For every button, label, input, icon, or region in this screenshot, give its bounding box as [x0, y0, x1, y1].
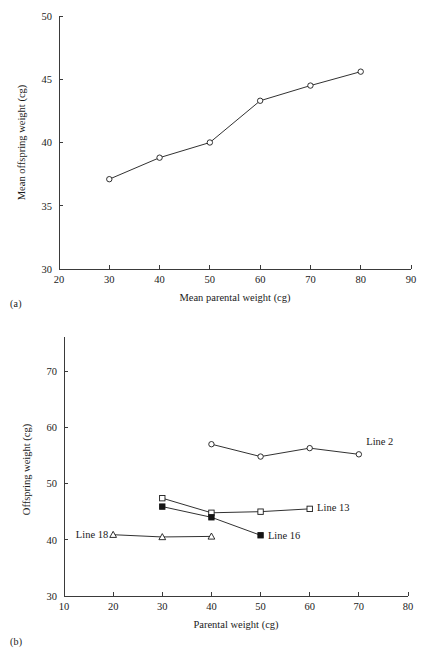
data-point-line-16-1 [209, 515, 214, 520]
x-tick-label-30: 30 [104, 274, 115, 285]
y-axis-title: Offspring weight (cg) [21, 423, 33, 515]
x-tick-label-30: 30 [157, 601, 168, 612]
series-mean-offspring-weight [107, 69, 364, 182]
data-point-line-13-2 [258, 509, 263, 514]
panel-label-b: (b) [10, 636, 22, 647]
data-point-line-16-2 [258, 533, 263, 538]
figure-container: 20304050607080903035404550Mean parental … [0, 0, 427, 661]
data-point-mean-offspring-weight-1 [157, 155, 162, 160]
x-tick-label-60: 60 [255, 274, 266, 285]
series-line-2: Line 2 [209, 436, 394, 460]
y-axis-title: Mean offspring weight (cg) [16, 84, 28, 200]
y-tick-label-60: 60 [47, 422, 58, 433]
series-label-line-2: Line 2 [366, 436, 393, 447]
y-tick-label-45: 45 [42, 74, 53, 85]
data-point-mean-offspring-weight-3 [257, 98, 262, 103]
x-tick-label-20: 20 [108, 601, 119, 612]
y-tick-label-40: 40 [42, 137, 53, 148]
data-point-line-2-2 [307, 445, 312, 450]
data-point-mean-offspring-weight-2 [207, 140, 212, 145]
x-tick-label-80: 80 [403, 601, 414, 612]
data-point-line-2-1 [258, 454, 263, 459]
data-point-line-16-0 [160, 504, 165, 509]
x-tick-label-70: 70 [354, 601, 365, 612]
x-tick-label-50: 50 [205, 274, 216, 285]
chart-panel-b: 10203040506070803040506070Parental weigh… [0, 320, 427, 661]
x-tick-label-20: 20 [54, 274, 65, 285]
data-point-line-13-3 [307, 506, 312, 511]
series-line-mean-offspring-weight [109, 72, 360, 180]
x-tick-label-40: 40 [206, 601, 217, 612]
x-tick-label-80: 80 [355, 274, 366, 285]
data-point-mean-offspring-weight-5 [358, 69, 363, 74]
y-tick-label-50: 50 [47, 478, 58, 489]
series-label-line-18: Line 18 [76, 529, 108, 540]
y-tick-label-30: 30 [42, 264, 53, 275]
y-tick-label-30: 30 [47, 591, 58, 602]
x-tick-label-70: 70 [305, 274, 316, 285]
x-tick-label-40: 40 [154, 274, 165, 285]
series-label-line-16: Line 16 [268, 530, 300, 541]
chart-b-svg: 10203040506070803040506070Parental weigh… [0, 320, 427, 661]
chart-a-svg: 20304050607080903035404550Mean parental … [0, 0, 427, 320]
y-tick-label-40: 40 [47, 535, 58, 546]
x-tick-label-10: 10 [59, 601, 70, 612]
series-line-line-2 [211, 444, 358, 456]
chart-panel-a: 20304050607080903035404550Mean parental … [0, 0, 427, 320]
data-point-mean-offspring-weight-4 [308, 83, 313, 88]
y-tick-label-50: 50 [42, 11, 53, 22]
x-axis-title: Mean parental weight (cg) [179, 292, 291, 304]
data-point-line-13-0 [160, 495, 165, 500]
series-line-18: Line 18 [76, 529, 215, 540]
series-label-line-13: Line 13 [317, 502, 349, 513]
y-tick-label-35: 35 [42, 201, 53, 212]
data-point-line-2-3 [356, 452, 361, 457]
series-line-16: Line 16 [160, 504, 301, 541]
series-line-line-13 [162, 498, 309, 513]
panel-label-a: (a) [10, 298, 22, 309]
data-point-mean-offspring-weight-0 [107, 176, 112, 181]
x-tick-label-50: 50 [255, 601, 266, 612]
x-tick-label-90: 90 [406, 274, 417, 285]
x-axis-title: Parental weight (cg) [193, 619, 279, 631]
y-tick-label-70: 70 [47, 366, 58, 377]
data-point-line-2-0 [209, 442, 214, 447]
x-tick-label-60: 60 [304, 601, 315, 612]
